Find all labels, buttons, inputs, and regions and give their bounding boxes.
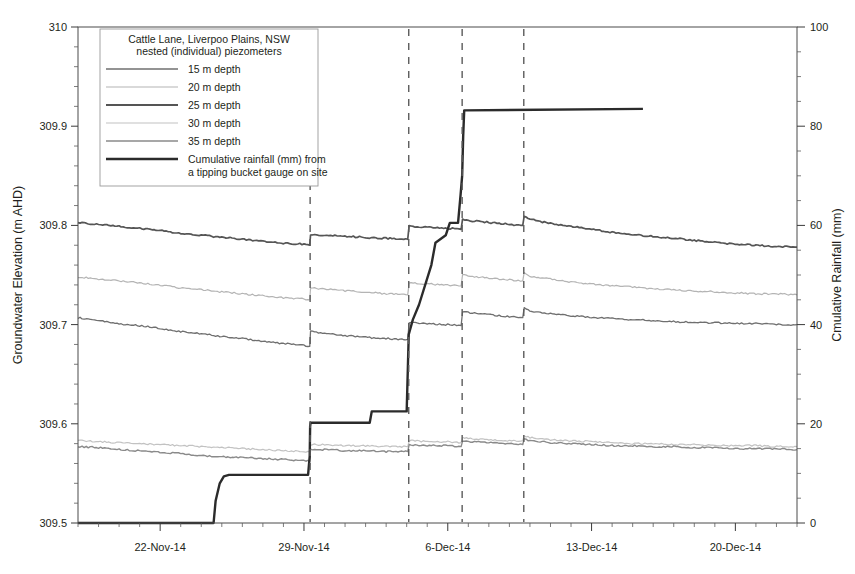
y2-axis-tick-label: 40 (810, 319, 822, 331)
legend-title-line-2: nested (individual) piezometers (136, 45, 281, 57)
legend-label-25-m-depth: 25 m depth (188, 99, 241, 111)
series-line-35-m-depth (78, 439, 797, 462)
y-axis-tick-label: 309.6 (39, 418, 67, 430)
figure-container: 309.5309.6309.7309.8309.9310020406080100… (0, 0, 855, 574)
legend-label-cumulative-rainfall-line-1: Cumulative rainfall (mm) from (188, 153, 326, 165)
chart-legend: Cattle Lane, Liverpoo Plains, NSWnested … (100, 29, 328, 186)
y2-axis-tick-label: 20 (810, 418, 822, 430)
x-axis-tick-label: 6-Dec-14 (425, 541, 470, 553)
y2-axis-tick-label: 0 (810, 517, 816, 529)
y-axis-tick-label: 310 (49, 21, 67, 33)
legend-label-35-m-depth: 35 m depth (188, 135, 241, 147)
y-axis-tick-label: 309.7 (39, 319, 67, 331)
y2-axis-tick-label: 100 (810, 21, 828, 33)
groundwater-rainfall-chart: 309.5309.6309.7309.8309.9310020406080100… (0, 0, 855, 574)
legend-label-15-m-depth: 15 m depth (188, 63, 241, 75)
series-line-30-m-depth (78, 436, 797, 452)
x-axis-tick-label: 29-Nov-14 (278, 541, 329, 553)
legend-label-30-m-depth: 30 m depth (188, 117, 241, 129)
y2-axis-tick-label: 60 (810, 219, 822, 231)
x-axis-tick-label: 20-Dec-14 (710, 541, 761, 553)
legend-title-line-1: Cattle Lane, Liverpoo Plains, NSW (128, 33, 290, 45)
x-axis-tick-label: 13-Dec-14 (566, 541, 617, 553)
legend-label-20-m-depth: 20 m depth (188, 81, 241, 93)
y-axis-tick-label: 309.9 (39, 120, 67, 132)
series-line-15-m-depth (78, 308, 797, 347)
series-line-20-m-depth (78, 273, 797, 300)
legend-label-cumulative-rainfall-line-2: a tipping bucket gauge on site (188, 166, 328, 178)
y-axis-tick-label: 309.8 (39, 219, 67, 231)
y-axis-title: Groundwater Elevation (m AHD) (11, 186, 25, 365)
y-axis-tick-label: 309.5 (39, 517, 67, 529)
y2-axis-tick-label: 80 (810, 120, 822, 132)
y2-axis-title: Cmulative Rainfall (mm) (830, 208, 844, 341)
x-axis-tick-label: 22-Nov-14 (134, 541, 185, 553)
